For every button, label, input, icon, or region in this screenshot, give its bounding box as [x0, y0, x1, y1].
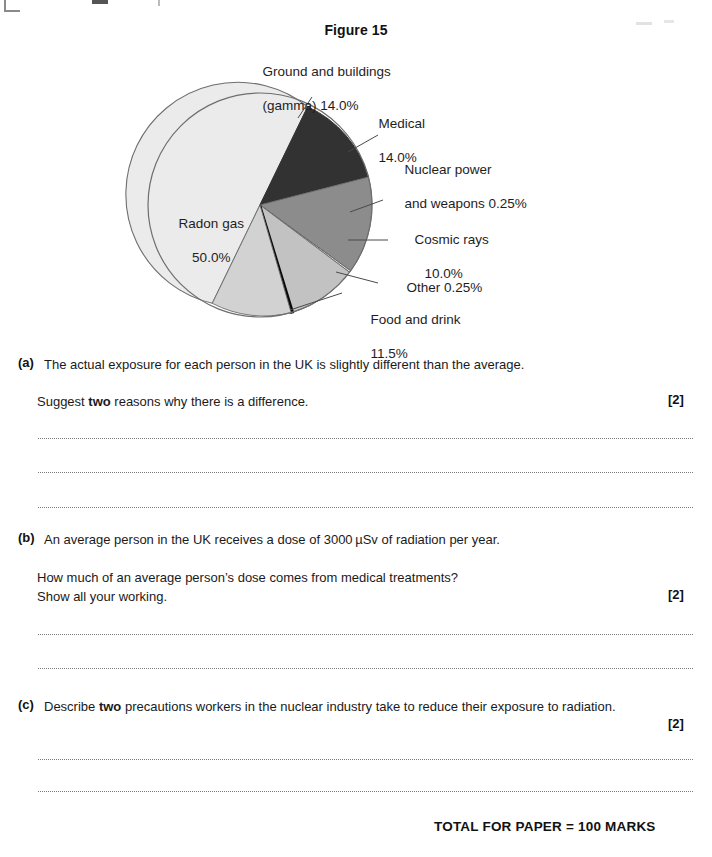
answer-line-a-2[interactable]: [38, 471, 693, 473]
question-c-line1-bold: two: [99, 699, 121, 714]
question-c-line1-post: precautions workers in the nuclear indus…: [121, 699, 615, 714]
pie-label-radon-line1: Radon gas: [179, 216, 244, 231]
question-a-line1: The actual exposure for each person in t…: [44, 355, 684, 374]
question-b-line1: An average person in the UK receives a d…: [44, 530, 684, 549]
answer-line-a-3[interactable]: [38, 506, 693, 508]
scan-artifact-corner-mark: [4, 0, 20, 12]
question-b-label: (b): [18, 530, 35, 545]
question-b-line3: Show all your working.: [37, 587, 657, 606]
answer-line-c-1[interactable]: [38, 758, 693, 760]
question-b-line2: How much of an average person’s dose com…: [37, 568, 657, 587]
answer-line-b-2[interactable]: [38, 667, 693, 669]
total-marks-footer: TOTAL FOR PAPER = 100 MARKS: [434, 819, 656, 834]
answer-line-a-1[interactable]: [38, 437, 693, 439]
pie-label-cosmic-line1: Cosmic rays: [415, 232, 489, 247]
pie-label-nuclear-line1: Nuclear power: [405, 162, 492, 177]
question-c-marks: [2]: [668, 716, 684, 731]
question-a-line2-post: reasons why there is a difference.: [111, 394, 309, 409]
pie-chart: Ground and buildings (gamma) 14.0% Medic…: [0, 40, 712, 340]
pie-label-radon-line2: 50.0%: [192, 250, 230, 265]
pie-label-other-line1: Other 0.25%: [407, 280, 483, 295]
answer-line-c-2[interactable]: [38, 790, 693, 792]
pie-label-nuclear-line2: and weapons 0.25%: [405, 196, 527, 211]
question-a-line2: Suggest two reasons why there is a diffe…: [37, 392, 637, 411]
pie-label-ground-line1: Ground and buildings: [263, 64, 391, 79]
question-a-label: (a): [18, 355, 34, 370]
question-c-label: (c): [18, 697, 34, 712]
pie-label-food-line1: Food and drink: [371, 312, 461, 327]
pie-label-radon-gas: Radon gas 50.0%: [150, 198, 250, 283]
question-a-line2-bold: two: [88, 394, 110, 409]
question-b-marks: [2]: [668, 587, 684, 602]
question-a-marks: [2]: [668, 392, 684, 407]
scan-artifact-smudge: [92, 0, 108, 4]
question-c-line1: Describe two precautions workers in the …: [44, 697, 704, 716]
pie-label-ground-line2: (gamma) 14.0%: [263, 98, 359, 113]
exam-page: Figure 15: [0, 0, 712, 857]
answer-line-b-1[interactable]: [38, 633, 693, 635]
question-a-line2-pre: Suggest: [37, 394, 88, 409]
question-c-line1-pre: Describe: [44, 699, 99, 714]
pie-label-medical-line1: Medical: [379, 116, 426, 131]
figure-title: Figure 15: [0, 22, 712, 38]
scan-artifact-speck: [158, 0, 160, 6]
